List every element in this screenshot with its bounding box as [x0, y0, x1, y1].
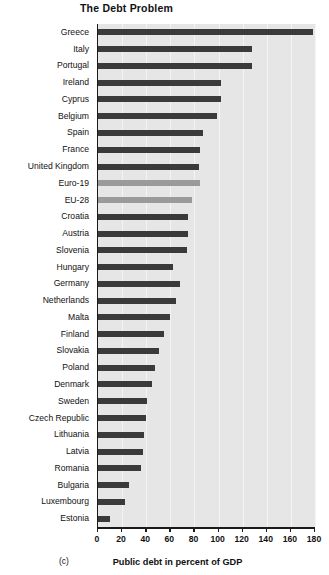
- category-label: Croatia: [61, 212, 89, 221]
- bar: [98, 247, 187, 253]
- bar: [98, 164, 199, 170]
- x-tick-label: 160: [283, 534, 297, 544]
- category-label: Austria: [62, 229, 89, 238]
- category-label: France: [62, 145, 89, 154]
- bar: [98, 281, 180, 287]
- category-label: Spain: [67, 128, 89, 137]
- category-label: Slovenia: [56, 246, 89, 255]
- bar: [98, 147, 200, 153]
- bar: [98, 46, 252, 52]
- bar: [98, 264, 173, 270]
- chart-title: The Debt Problem: [80, 2, 173, 14]
- x-tick: [121, 527, 122, 532]
- x-tick-label: 60: [165, 534, 175, 544]
- bar: [98, 63, 252, 69]
- bar: [98, 516, 110, 522]
- x-tick-label: 100: [210, 534, 224, 544]
- category-label: Czech Republic: [29, 414, 89, 423]
- x-axis-title: Public debt in percent of GDP: [0, 557, 329, 567]
- x-axis-ticks: [97, 527, 314, 533]
- bar: [98, 415, 146, 421]
- x-tick: [193, 527, 194, 532]
- category-label: Euro-19: [58, 179, 89, 188]
- x-tick: [145, 527, 146, 532]
- bar: [98, 130, 203, 136]
- figure-panel: The Debt Problem GreeceItalyPortugalIrel…: [0, 0, 329, 575]
- category-label: Romania: [55, 464, 89, 473]
- category-label: Denmark: [54, 380, 89, 389]
- category-label: Bulgaria: [57, 481, 89, 490]
- bar: [98, 348, 159, 354]
- bar: [98, 331, 164, 337]
- x-tick-label: 0: [95, 534, 100, 544]
- category-label: Belgium: [58, 112, 89, 121]
- category-label: Lithuania: [54, 430, 89, 439]
- x-tick: [242, 527, 243, 532]
- category-label: Hungary: [57, 263, 89, 272]
- x-tick-label: 180: [307, 534, 321, 544]
- bar: [98, 482, 129, 488]
- category-label: Cyprus: [62, 95, 89, 104]
- bar: [98, 231, 188, 237]
- bar: [98, 365, 155, 371]
- bar: [98, 381, 152, 387]
- x-tick-label: 140: [259, 534, 273, 544]
- bar: [98, 314, 170, 320]
- category-axis-labels: GreeceItalyPortugalIrelandCyprusBelgiumS…: [0, 24, 93, 527]
- category-label: Ireland: [63, 78, 89, 87]
- plot-area: [97, 24, 315, 527]
- x-tick: [290, 527, 291, 532]
- bar: [98, 197, 192, 203]
- category-label: Germany: [54, 279, 89, 288]
- bar: [98, 214, 188, 220]
- x-axis-tick-labels: 020406080100120140160180: [0, 534, 329, 546]
- category-label: Greece: [61, 28, 89, 37]
- x-tick: [169, 527, 170, 532]
- category-label: Latvia: [66, 447, 89, 456]
- panel-label: (c): [59, 556, 69, 566]
- bar: [98, 398, 147, 404]
- x-tick: [314, 527, 315, 532]
- bar: [98, 96, 221, 102]
- category-label: Portugal: [57, 61, 89, 70]
- x-tick: [97, 527, 98, 532]
- x-tick: [266, 527, 267, 532]
- category-label: Estonia: [60, 514, 89, 523]
- category-label: Netherlands: [43, 296, 89, 305]
- x-tick-label: 80: [189, 534, 199, 544]
- category-label: Luxembourg: [41, 497, 89, 506]
- category-label: United Kingdom: [28, 162, 89, 171]
- x-tick-label: 40: [140, 534, 150, 544]
- bar: [98, 298, 176, 304]
- category-label: EU-28: [65, 196, 89, 205]
- bar: [98, 80, 221, 86]
- bar: [98, 499, 125, 505]
- x-tick: [218, 527, 219, 532]
- bar: [98, 465, 141, 471]
- category-label: Poland: [62, 363, 89, 372]
- category-label: Sweden: [58, 397, 89, 406]
- category-label: Malta: [68, 313, 89, 322]
- bar: [98, 432, 144, 438]
- bar: [98, 449, 143, 455]
- category-label: Italy: [73, 45, 89, 54]
- bar-series: [98, 24, 315, 527]
- x-tick-label: 120: [234, 534, 248, 544]
- category-label: Slovakia: [57, 346, 89, 355]
- category-label: Finland: [61, 330, 89, 339]
- bar: [98, 113, 217, 119]
- x-tick-label: 20: [116, 534, 126, 544]
- bar: [98, 180, 200, 186]
- bar: [98, 29, 313, 35]
- gridline: [315, 24, 316, 527]
